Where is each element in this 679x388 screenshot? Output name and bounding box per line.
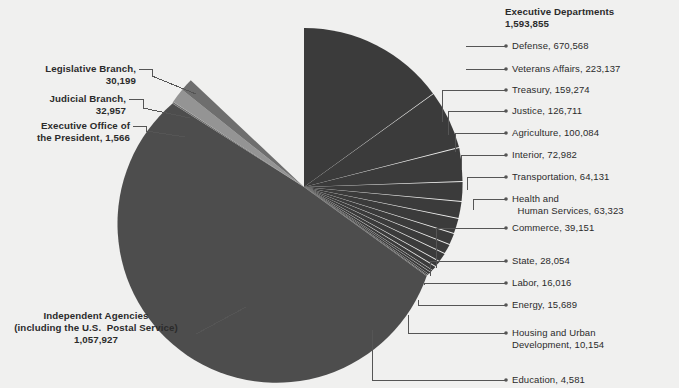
label-labor: Labor, 16,016 xyxy=(512,277,571,289)
page-title: Executive Departments xyxy=(505,6,614,18)
leader-route-state xyxy=(430,261,494,276)
endpoint-interior xyxy=(504,153,508,157)
endpoint-labor xyxy=(504,281,508,285)
label-justice: Justice, 126,711 xyxy=(512,105,582,117)
leader-route-hud xyxy=(408,315,504,333)
label-defense: Defense, 670,568 xyxy=(512,40,589,52)
leader-riser-hhs xyxy=(473,199,486,210)
label-independent-agencies-note: (including the U.S. Postal Service) xyxy=(0,322,192,334)
endpoint-agriculture xyxy=(504,131,508,135)
label-executive-office-president-value: the President, 1,566 xyxy=(0,132,130,144)
label-legislative-branch: Legislative Branch, xyxy=(0,63,136,75)
endpoint-state xyxy=(504,259,508,263)
page-title-value: 1,593,855 xyxy=(505,18,549,30)
label-health-human-services-line2: Human Services, 63,323 xyxy=(512,205,624,217)
label-health-human-services: Health and xyxy=(512,193,559,205)
pie-chart-figure: Executive Departments 1,593,855 Defense,… xyxy=(0,0,679,388)
leader-endpoints xyxy=(504,44,508,382)
endpoint-health-human-services xyxy=(504,197,508,201)
label-executive-office-president: Executive Office of xyxy=(0,120,130,132)
endpoint-energy xyxy=(504,303,508,307)
endpoint-housing-urban-development xyxy=(504,331,508,335)
label-judicial-branch: Judicial Branch, xyxy=(0,93,126,105)
label-housing-urban-development: Housing and Urban xyxy=(512,327,596,339)
leader-riser-transportation xyxy=(467,177,482,190)
label-transportation: Transportation, 64,131 xyxy=(512,171,609,183)
label-commerce: Commerce, 39,151 xyxy=(512,222,594,234)
label-independent-agencies: Independent Agencies xyxy=(0,310,192,322)
endpoint-veterans-affairs xyxy=(504,67,508,71)
label-treasury: Treasury, 159,274 xyxy=(512,84,590,96)
endpoint-education xyxy=(504,378,508,382)
endpoint-commerce xyxy=(504,226,508,230)
label-veterans-affairs: Veterans Affairs, 223,137 xyxy=(512,63,620,75)
label-housing-urban-development-line2: Development, 10,154 xyxy=(512,339,604,351)
leader-route-energy xyxy=(418,300,502,305)
endpoint-treasury xyxy=(504,88,508,92)
leader-riser-interior xyxy=(461,155,478,170)
leader-route-labor xyxy=(424,283,498,285)
leader-legislative-branch xyxy=(139,69,196,94)
endpoint-transportation xyxy=(504,175,508,179)
endpoint-justice xyxy=(504,109,508,113)
label-interior: Interior, 72,982 xyxy=(512,149,577,161)
label-energy: Energy, 15,689 xyxy=(512,299,577,311)
label-independent-agencies-value: 1,057,927 xyxy=(0,334,192,346)
label-legislative-branch-value: 30,199 xyxy=(0,75,136,87)
label-agriculture: Agriculture, 100,084 xyxy=(512,127,599,139)
label-state: State, 28,054 xyxy=(512,255,570,267)
endpoint-defense xyxy=(504,44,508,48)
label-education: Education, 4,581 xyxy=(512,374,585,386)
label-judicial-branch-value: 32,957 xyxy=(0,105,126,117)
